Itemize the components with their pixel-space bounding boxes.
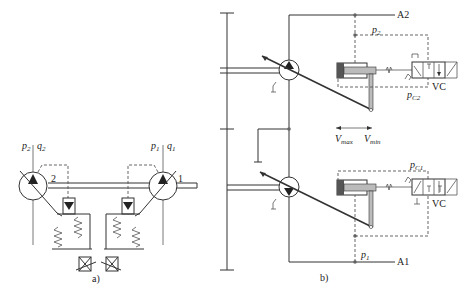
figure-b: A2 A1 p2 [220, 9, 457, 284]
line-a1-label: A1 [397, 256, 409, 267]
caption-a: a) [92, 273, 100, 285]
vc-upper-label: VC [432, 81, 446, 92]
vc-lower-label: VC [432, 198, 446, 209]
line-a2-label: A2 [397, 9, 409, 20]
figure-a: 2 p2 q2 1 p1 q1 [19, 140, 197, 285]
pump-1: 1 p1 q1 [135, 140, 183, 245]
regulator-left [52, 198, 96, 271]
caption-b: b) [320, 272, 328, 284]
pump-1-number: 1 [178, 173, 183, 184]
regulator-right [101, 198, 144, 271]
upper-pump-unit: p2 VC pC2 Vmax Vmin [220, 13, 457, 146]
vmax-label: Vmax [335, 133, 354, 146]
p2-label: p2 [21, 140, 31, 153]
hydraulic-diagram: 2 p2 q2 1 p1 q1 [0, 0, 471, 293]
p1-label-b: p1 [360, 249, 370, 262]
q2-label: q2 [37, 140, 46, 153]
p1-label: p1 [150, 140, 160, 153]
q1-label: q1 [167, 140, 176, 153]
vmin-label: Vmin [364, 133, 381, 146]
pc1-label: pC1 [409, 159, 423, 172]
pump-2-number: 2 [51, 173, 56, 184]
lower-pump-unit: p1 VC pC1 [227, 159, 457, 264]
pc2-label: pC2 [406, 89, 421, 102]
